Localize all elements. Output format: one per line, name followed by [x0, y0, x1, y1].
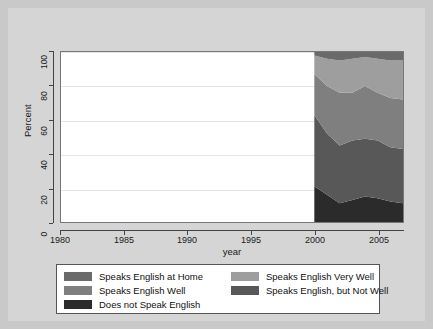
y-axis-line — [53, 51, 54, 223]
y-tick-mark — [49, 85, 53, 86]
legend-swatch — [64, 286, 92, 295]
plot-inner — [61, 52, 403, 222]
legend-label: Speaks English Very Well — [266, 271, 374, 282]
y-tick-label: 20 — [39, 189, 49, 211]
legend-entry[interactable]: Speaks English Well — [64, 283, 203, 297]
x-tick-label: 1995 — [231, 235, 271, 245]
plot-area — [60, 51, 404, 223]
stacked-area-plot — [61, 52, 403, 222]
legend-label: Speaks English at Home — [99, 271, 203, 282]
y-tick-label: 80 — [39, 85, 49, 107]
y-tick-label: 100 — [39, 51, 49, 73]
x-tick-label: 1980 — [40, 235, 80, 245]
y-tick-mark — [49, 154, 53, 155]
legend-swatch — [231, 272, 259, 281]
legend-swatch — [64, 272, 92, 281]
legend-column-left: Speaks English at HomeSpeaks English Wel… — [64, 269, 203, 311]
x-tick-label: 2000 — [295, 235, 335, 245]
legend-entry[interactable]: Speaks English Very Well — [231, 269, 388, 283]
legend-swatch — [64, 300, 92, 309]
chart-legend: Speaks English at HomeSpeaks English Wel… — [56, 264, 380, 314]
legend-entry[interactable]: Speaks English at Home — [64, 269, 203, 283]
y-tick-mark — [49, 120, 53, 121]
y-tick-label: 60 — [39, 120, 49, 142]
legend-label: Speaks English Well — [99, 285, 185, 296]
y-axis-title: Percent — [22, 104, 33, 137]
y-tick-label: 40 — [39, 154, 49, 176]
legend-swatch — [231, 286, 259, 295]
y-tick-mark — [49, 223, 53, 224]
y-tick-mark — [49, 189, 53, 190]
x-tick-label: 1990 — [167, 235, 207, 245]
y-tick-mark — [49, 51, 53, 52]
legend-label: Speaks English, but Not Well — [266, 285, 388, 296]
legend-entry[interactable]: Speaks English, but Not Well — [231, 283, 388, 297]
x-axis-line — [60, 230, 404, 231]
x-tick-label: 2005 — [359, 235, 399, 245]
legend-column-right: Speaks English Very WellSpeaks English, … — [231, 269, 388, 297]
legend-label: Does not Speak English — [99, 299, 200, 310]
x-axis-title: year — [60, 246, 404, 257]
legend-entry[interactable]: Does not Speak English — [64, 297, 203, 311]
chart-figure: Percent 020406080100 1980198519901995200… — [8, 8, 425, 321]
x-tick-label: 1985 — [104, 235, 144, 245]
